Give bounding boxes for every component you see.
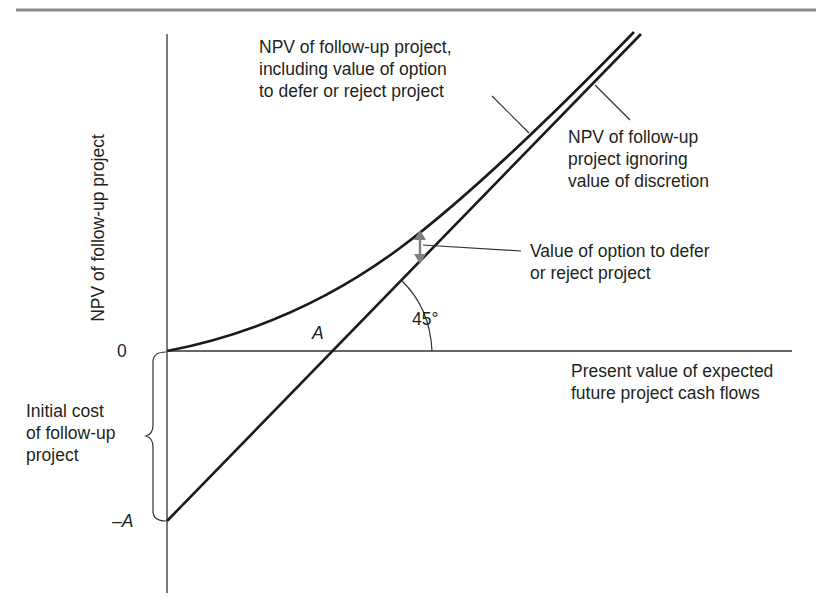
option-value-leader xyxy=(423,245,521,251)
y-tick-neg-a: –A xyxy=(112,510,133,532)
y-tick-zero: 0 xyxy=(117,340,127,362)
x-axis-label: Present value of expected future project… xyxy=(571,360,773,404)
option-value-label: Value of option to defer or reject proje… xyxy=(530,240,710,284)
option-diagram: NPV of follow-up project 0 –A A 45° Pres… xyxy=(0,0,816,615)
x-intercept-label: A xyxy=(312,322,324,344)
line-label: NPV of follow-up project ignoring value … xyxy=(568,126,709,192)
initial-cost-label: Initial cost of follow-up project xyxy=(26,400,116,466)
line-label-leader xyxy=(595,85,630,120)
curve-label-leader xyxy=(492,96,529,133)
initial-cost-brace xyxy=(146,352,166,521)
angle-label: 45° xyxy=(412,308,438,330)
curve-label: NPV of follow-up project, including valu… xyxy=(259,36,452,102)
